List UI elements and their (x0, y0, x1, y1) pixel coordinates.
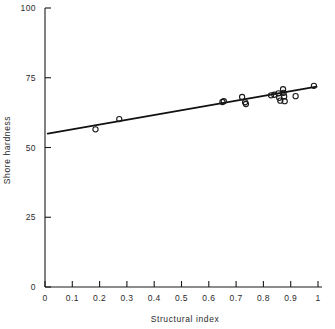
x-axis-tick-label: 0 (42, 293, 47, 303)
x-axis-tick-label: 1 (315, 293, 320, 303)
x-axis-tick-label: 0.3 (120, 293, 133, 303)
x-axis-tick-label: 0.7 (230, 293, 243, 303)
y-axis-title: Shore hardness (2, 116, 12, 184)
y-axis-tick-label: 25 (26, 212, 36, 222)
x-axis-tick-label: 0.8 (257, 293, 270, 303)
data-point-marker (93, 127, 98, 132)
x-axis-tick-label: 0.4 (148, 293, 161, 303)
plot-axes (45, 8, 322, 287)
y-axis-tick-label: 50 (26, 143, 36, 153)
data-point-markers (93, 83, 317, 132)
y-axis-tick-labels: 0255075100 (21, 3, 36, 292)
shore-hardness-scatter-chart: 0255075100 00.10.20.30.40.50.60.70.80.91… (0, 0, 335, 329)
y-axis-ticks (45, 8, 51, 287)
x-axis-tick-label: 0.9 (284, 293, 297, 303)
x-axis-tick-label: 0.5 (175, 293, 188, 303)
x-axis-tick-labels: 00.10.20.30.40.50.60.70.80.91 (42, 293, 320, 303)
y-axis-tick-label: 100 (21, 3, 36, 13)
x-axis-tick-label: 0.2 (93, 293, 106, 303)
data-point-marker (293, 94, 298, 99)
x-axis-ticks (45, 281, 318, 287)
x-axis-title: Structural index (151, 314, 220, 324)
y-axis-tick-label: 75 (26, 73, 36, 83)
y-axis-tick-label: 0 (31, 282, 36, 292)
x-axis-tick-label: 0.6 (202, 293, 215, 303)
x-axis-tick-label: 0.1 (66, 293, 79, 303)
